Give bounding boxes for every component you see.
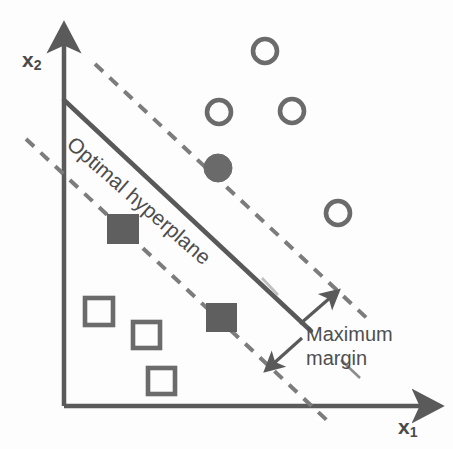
diagram-canvas — [0, 0, 453, 449]
x-axis-label: x1 — [398, 415, 417, 440]
data-point-circle-filled — [204, 154, 232, 182]
data-point-square-filled — [206, 303, 237, 332]
margin-arrow-down — [273, 338, 302, 364]
data-point-square-filled — [107, 214, 139, 244]
data-point-circle-open — [253, 39, 277, 63]
y-axis-label: x2 — [22, 48, 41, 73]
data-point-square-open — [148, 368, 175, 394]
data-point-circle-open — [207, 100, 231, 124]
x-axis-label-text: x — [398, 415, 410, 438]
data-point-circle-open — [326, 201, 350, 225]
data-point-square-open — [133, 322, 160, 348]
lower-margin-boundary-line — [26, 139, 331, 424]
y-axis-label-text: x — [22, 48, 34, 71]
data-point-square-open — [85, 298, 113, 325]
margin-arrow-up — [300, 297, 331, 324]
maximum-margin-label-line2: margin — [306, 347, 367, 370]
x-axis-label-subscript: 1 — [410, 424, 418, 440]
maximum-margin-label-line1: Maximum — [306, 323, 393, 346]
data-point-circle-open — [280, 99, 304, 123]
y-axis-label-subscript: 2 — [34, 57, 42, 73]
svm-diagram: x2 x1 Optimal hyperplane Maximum margin — [0, 0, 453, 449]
